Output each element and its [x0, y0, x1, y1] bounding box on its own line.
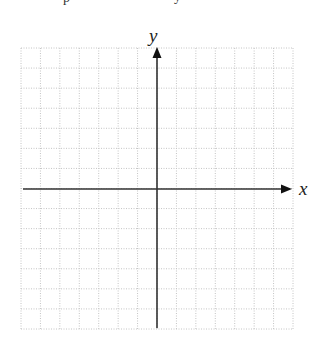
- x-axis-label: x: [299, 179, 307, 198]
- y-axis-label: y: [149, 26, 157, 45]
- axes: [23, 47, 292, 328]
- x-axis-arrow-icon: [281, 185, 292, 194]
- coordinate-plane: [0, 0, 326, 349]
- y-axis-arrow-icon: [153, 47, 162, 58]
